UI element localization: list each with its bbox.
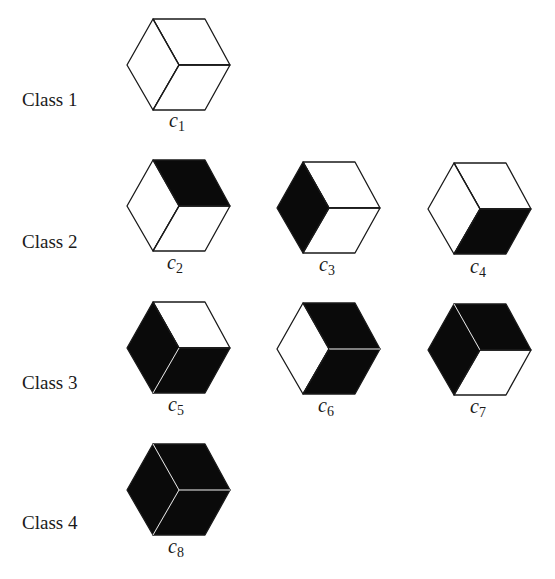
cube-name: c: [167, 251, 176, 273]
cube-name: c: [470, 395, 479, 417]
cube-c4: [426, 161, 536, 257]
cube-subscript: 3: [328, 263, 335, 278]
cube-c6: [275, 301, 385, 397]
cube-label-c3: c3: [319, 253, 335, 279]
cube-subscript: 7: [479, 405, 486, 420]
cube-label-c4: c4: [470, 255, 486, 281]
cube-subscript: 6: [327, 404, 334, 419]
cube-name: c: [319, 253, 328, 275]
class-label-2: Class 2: [22, 231, 77, 253]
cube-label-c1: c1: [169, 109, 185, 135]
cube-c5: [125, 300, 235, 396]
class-label-4: Class 4: [22, 512, 77, 534]
cube-subscript: 5: [177, 403, 184, 418]
cube-subscript: 1: [178, 119, 185, 134]
cube-name: c: [470, 255, 479, 277]
cube-name: c: [168, 393, 177, 415]
cube-subscript: 2: [176, 261, 183, 276]
cube-label-c6: c6: [318, 394, 334, 420]
cube-c1: [125, 17, 235, 113]
cube-c3: [275, 160, 385, 256]
cube-name: c: [169, 109, 178, 131]
cube-label-c8: c8: [168, 535, 184, 561]
cube-c2: [125, 158, 235, 254]
cube-c7: [426, 302, 536, 398]
cube-name: c: [318, 394, 327, 416]
cube-label-c2: c2: [167, 251, 183, 277]
cube-subscript: 8: [177, 545, 184, 560]
class-label-1: Class 1: [22, 89, 77, 111]
cube-label-c5: c5: [168, 393, 184, 419]
class-label-3: Class 3: [22, 372, 77, 394]
cube-label-c7: c7: [470, 395, 486, 421]
cube-name: c: [168, 535, 177, 557]
cube-c8: [125, 442, 235, 538]
cube-subscript: 4: [479, 265, 486, 280]
